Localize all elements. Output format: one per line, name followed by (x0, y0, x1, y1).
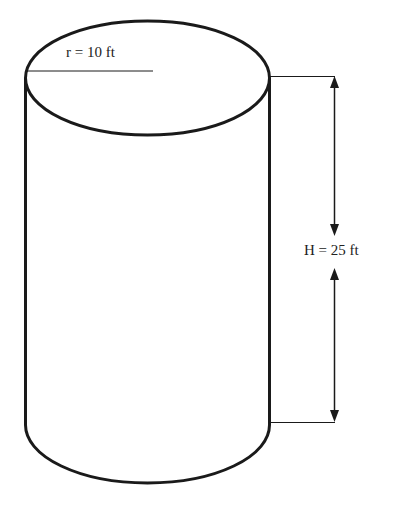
arrowhead-down-middle (330, 224, 339, 236)
cylinder-top-ellipse (26, 21, 270, 135)
arrowhead-up-middle (330, 268, 339, 280)
cylinder-bottom-arc (26, 425, 270, 483)
radius-label: r = 10 ft (66, 44, 115, 61)
arrowhead-down-bottom (330, 410, 339, 422)
height-label: H = 25 ft (304, 242, 359, 259)
arrowhead-up-top (330, 76, 339, 88)
